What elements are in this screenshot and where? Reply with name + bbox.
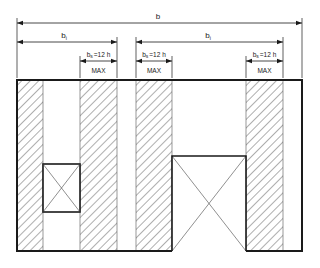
dimension-label: bs=12 h [87, 51, 111, 59]
dimension-label: bi [205, 31, 211, 41]
hatched-column-4 [246, 80, 283, 251]
hatched-column-3 [136, 80, 172, 251]
window-opening [43, 164, 80, 212]
hatched-column-2 [80, 80, 117, 251]
max-note: MAX [91, 67, 106, 74]
max-note: MAX [147, 67, 162, 74]
dimension-label: b [156, 12, 161, 21]
hatched-column-1 [17, 80, 43, 251]
door-opening [172, 156, 246, 251]
dimension-panel-2: bs=12 h MAX [136, 51, 172, 74]
dimension-panel-3: bs=12 h MAX [246, 51, 283, 74]
dimension-right-bay: bi [136, 31, 283, 42]
dimension-label: bs=12 h [142, 51, 166, 59]
dimension-label: bi [61, 31, 67, 41]
dimension-left-bay: bi [17, 31, 117, 42]
dimension-label: bs=12 h [253, 51, 277, 59]
dimension-overall-b: b [17, 12, 302, 23]
dimension-panel-1: bs=12 h MAX [80, 51, 117, 74]
wall-diagram: b bi bi bs=12 h MAX bs=12 h MAX bs=12 h … [0, 0, 320, 268]
max-note: MAX [257, 67, 272, 74]
